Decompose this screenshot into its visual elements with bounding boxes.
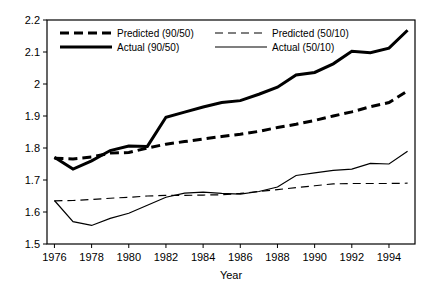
x-axis-title: Year <box>220 269 243 281</box>
y-tick-label: 1.9 <box>25 110 40 122</box>
line-chart: 2.22.121.91.81.71.61.5 19761978198019821… <box>0 0 439 299</box>
series-lines <box>54 30 407 225</box>
x-tick-label: 1980 <box>117 251 141 263</box>
y-tick-label: 1.8 <box>25 142 40 154</box>
y-tick-label: 1.6 <box>25 206 40 218</box>
y-axis-ticks: 2.22.121.91.81.71.61.5 <box>25 14 47 250</box>
legend-label: Predicted (50/10) <box>272 28 349 39</box>
y-tick-label: 1.7 <box>25 174 40 186</box>
y-tick-label: 2.2 <box>25 14 40 26</box>
x-tick-label: 1982 <box>154 251 178 263</box>
y-tick-label: 2.1 <box>25 46 40 58</box>
x-tick-label: 1986 <box>228 251 252 263</box>
x-tick-label: 1988 <box>265 251 289 263</box>
x-axis-ticks: 1976197819801982198419861988199019921994 <box>42 244 401 263</box>
plot-frame-group <box>47 20 415 244</box>
x-tick-label: 1984 <box>191 251 215 263</box>
y-tick-label: 1.5 <box>25 238 40 250</box>
series-line-predicted-50-10 <box>54 183 407 201</box>
x-tick-label: 1994 <box>377 251 401 263</box>
chart-container: 2.22.121.91.81.71.61.5 19761978198019821… <box>0 0 439 299</box>
plot-frame <box>47 20 415 244</box>
x-tick-label: 1978 <box>79 251 103 263</box>
x-tick-label: 1990 <box>302 251 326 263</box>
series-line-actual-50-10 <box>54 151 407 225</box>
legend-label: Predicted (90/50) <box>117 28 194 39</box>
series-line-actual-90-50 <box>54 30 407 169</box>
y-tick-label: 2 <box>34 78 40 90</box>
x-tick-label: 1976 <box>42 251 66 263</box>
chart-legend: Predicted (90/50)Predicted (50/10)Actual… <box>60 28 349 53</box>
legend-label: Actual (50/10) <box>272 42 334 53</box>
x-tick-label: 1992 <box>340 251 364 263</box>
legend-label: Actual (90/50) <box>117 42 179 53</box>
